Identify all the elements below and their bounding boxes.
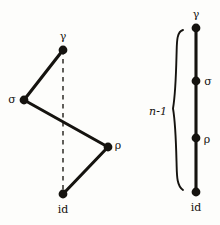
right-diagram-group — [173, 24, 200, 197]
vertex-dot-gamma-left — [59, 46, 68, 55]
label-gamma-left: γ — [60, 31, 67, 42]
edge-rho-id — [63, 147, 108, 194]
vertex-dot-id-left — [59, 190, 68, 199]
figure-svg — [0, 0, 220, 225]
label-id-left: id — [58, 204, 69, 215]
label-sigma-right: σ — [204, 76, 212, 87]
label-rho-left: ρ — [115, 140, 121, 151]
edge-gamma-sigma — [24, 50, 63, 100]
vertex-dot-sigma-left — [20, 96, 29, 105]
label-rho-right: ρ — [204, 134, 210, 145]
left-diagram-group — [20, 46, 113, 199]
vertex-dot-sigma-right — [192, 77, 201, 86]
edge-sigma-rho — [24, 100, 108, 147]
label-brace-n-minus-1: n-1 — [149, 106, 167, 117]
label-id-right: id — [191, 202, 202, 213]
vertex-dot-rho-left — [104, 143, 113, 152]
brace-n-minus-1 — [173, 30, 183, 190]
vertex-dot-id-right — [192, 188, 201, 197]
vertex-dot-gamma-right — [192, 24, 201, 33]
label-sigma-left: σ — [8, 94, 16, 105]
vertex-dot-rho-right — [192, 134, 201, 143]
label-gamma-right: γ — [193, 9, 200, 20]
figure-canvas: γ σ ρ id γ σ ρ id n-1 — [0, 0, 220, 225]
